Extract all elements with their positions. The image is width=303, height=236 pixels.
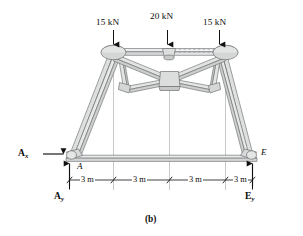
truss-figure: 15 kN 20 kN 15 kN Ax Ay Ey A E 3 m 3 m 3… [0, 0, 303, 236]
reaction-ax-symbol: A [18, 147, 25, 158]
dim-label-2: 3 m [132, 176, 147, 184]
member-bottom-chord [66, 155, 257, 161]
dimension-line [67, 171, 255, 190]
member-right-inner-diagonal [218, 56, 249, 154]
reaction-ey-subscript: y [251, 195, 254, 202]
load-label-right: 15 kN [203, 18, 226, 27]
load-label-left: 15 kN [96, 18, 119, 27]
joint-label-a: A [77, 162, 83, 171]
load-label-center: 20 kN [150, 12, 173, 21]
dim-label-4: 3 m [233, 176, 248, 184]
truss-members [66, 49, 257, 162]
member-left-inner-diagonal [76, 55, 120, 155]
truss-drawing [0, 0, 303, 236]
joint-d-gusset [213, 45, 238, 59]
joint-label-e: E [261, 148, 267, 157]
joint-center-gusset [159, 72, 180, 91]
reaction-label-ey: Ey [245, 191, 254, 201]
joint-b-gusset [101, 45, 126, 59]
figure-caption: (b) [145, 215, 156, 224]
dim-label-1: 3 m [80, 176, 95, 184]
dim-label-3: 3 m [188, 176, 203, 184]
reaction-ax-subscript: x [25, 152, 28, 159]
load-arrows [114, 30, 220, 45]
extension-gridlines [114, 47, 226, 190]
reaction-ay-symbol: A [54, 190, 61, 201]
reaction-ay-subscript: y [61, 195, 64, 202]
reaction-label-ay: Ay [54, 191, 64, 201]
joint-c-gusset [163, 49, 176, 60]
reaction-label-ax: Ax [18, 148, 28, 158]
